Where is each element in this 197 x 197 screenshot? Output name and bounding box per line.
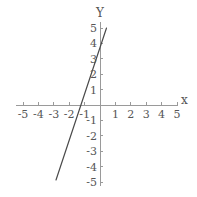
- x-tick-label: -3: [48, 109, 59, 120]
- y-tick-label: -5: [86, 177, 97, 188]
- y-tick-label: 4: [90, 38, 97, 49]
- x-tick-label: 5: [174, 109, 181, 120]
- x-tick-label: -2: [64, 109, 75, 120]
- linear-function-graph: Y x -5-4-3-2-112345 54321-1-2-3-4-5: [0, 0, 197, 197]
- y-tick-label: -2: [86, 130, 97, 141]
- x-tick-label: 3: [143, 109, 150, 120]
- x-tick-label: -5: [18, 109, 29, 120]
- y-tick-label: -3: [86, 146, 97, 157]
- y-tick-label: -4: [86, 161, 97, 172]
- y-tick-label: 3: [90, 53, 97, 64]
- x-tick-label: 4: [158, 109, 165, 120]
- x-tick-label: -4: [33, 109, 44, 120]
- y-tick-label: 5: [90, 23, 97, 34]
- y-tick-label: 1: [90, 84, 97, 95]
- plot-canvas: [0, 0, 197, 197]
- axes-group: [16, 22, 178, 186]
- x-axis-label: x: [181, 94, 188, 106]
- x-tick-label: 1: [112, 109, 119, 120]
- y-axis-label: Y: [96, 7, 104, 19]
- x-tick-label: 2: [127, 109, 134, 120]
- y-tick-label: -1: [86, 115, 97, 126]
- data-line-group: [56, 28, 107, 180]
- plotted-line: [56, 28, 107, 180]
- y-tick-label: 2: [90, 69, 97, 80]
